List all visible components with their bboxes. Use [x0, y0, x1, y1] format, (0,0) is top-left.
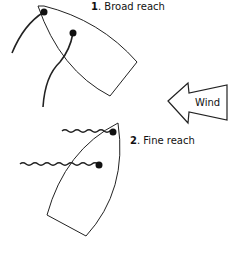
boat-fine-reach: 2. Fine reach: [20, 123, 195, 236]
sheet-line-1: [12, 12, 44, 53]
clew-dot-1: [41, 9, 48, 16]
clew-dot-1: [110, 129, 117, 136]
boat-broad-reach: 1. Broad reach: [12, 1, 165, 107]
label-broad-reach: 1. Broad reach: [91, 1, 165, 12]
wind-arrow: Wind: [168, 83, 227, 123]
wind-label: Wind: [195, 97, 220, 108]
reaching-diagram: 1. Broad reach Wind 2. Fine reach: [0, 0, 240, 263]
sheet-line-2: [43, 33, 73, 107]
clew-dot-2: [70, 30, 77, 37]
clew-dot-2: [96, 162, 103, 169]
label-fine-reach: 2. Fine reach: [130, 135, 195, 146]
luffing-sail-line-2: [20, 163, 99, 166]
hull-outline: [38, 6, 137, 96]
hull-outline: [47, 123, 120, 236]
